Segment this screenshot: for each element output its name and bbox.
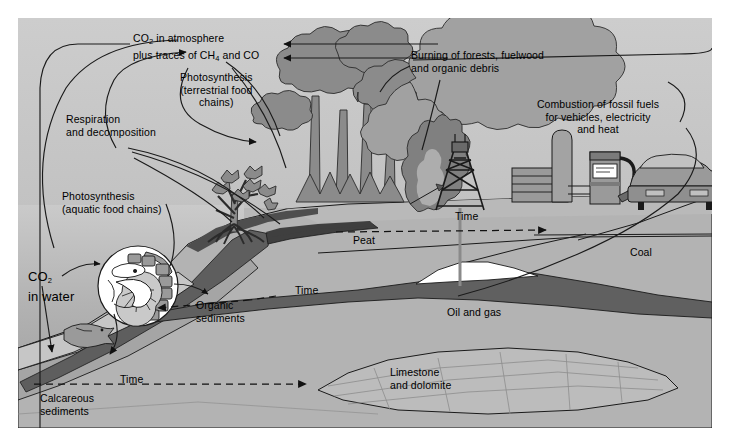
label-oil-and-gas: Oil and gas [447,306,501,319]
label-peat: Peat [353,234,375,247]
co2-water-line1: CO2 [28,269,52,284]
label-coal: Coal [630,246,652,259]
copepod-eye [133,269,137,273]
fuel-pump [590,152,620,204]
label-co2-atmosphere: CO2 in atmosphere plus traces of CH4 and… [133,32,259,65]
label-time-lower: Time [120,373,143,386]
label-calcareous-sediments: Calcareous sediments [40,392,94,417]
label-photosynthesis-terrestrial: Photosynthesis (terrestrial food chains) [180,71,253,109]
label-co2-in-water: CO2 in water [28,269,74,305]
label-limestone-dolomite: Limestone and dolomite [390,366,451,391]
label-organic-sediments: Organic sediments [196,299,245,324]
plankton-circle [98,246,178,326]
co2-water-line2: in water [28,289,74,304]
label-time-upper: Time [455,210,478,223]
carbon-cycle-diagram: CO2 in atmosphere plus traces of CH4 and… [18,18,712,428]
co2-atmosphere-line1: CO2 in atmosphere [133,32,224,44]
diagram-artwork [18,18,712,428]
label-time-middle: Time [295,284,318,297]
label-photosynthesis-aquatic: Photosynthesis (aquatic food chains) [62,190,162,215]
co2-atmosphere-line2: plus traces of CH4 and CO [133,49,259,61]
label-burning-of-forests: Burning of forests, fuelwood and organic… [411,49,544,74]
storage-tank [552,130,572,202]
label-combustion-fossil-fuels: Combustion of fossil fuels for vehicles,… [537,98,659,136]
label-respiration-decomposition: Respiration and decomposition [66,113,156,138]
figure-canvas: CO2 in atmosphere plus traces of CH4 and… [0,0,732,444]
